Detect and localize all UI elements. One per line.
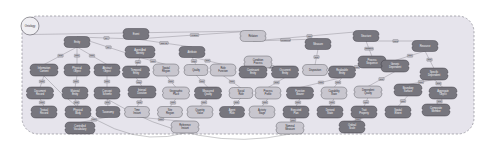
svg-text:part: part [308,35,312,37]
node-label: Sequence [366,61,378,65]
node-label: Measure [313,42,323,46]
node-label: Entity [339,71,346,75]
graph-node[interactable]: Quality [184,65,208,76]
node-label: Value [197,111,204,115]
graph-node[interactable]: OrdinalScale [339,121,365,133]
node-label: Content [40,69,49,73]
node-label: Relation [248,34,258,38]
graph-node[interactable]: Event [123,29,149,40]
graph-node[interactable]: GenericDependent [381,60,409,72]
node-label: Region [162,69,171,73]
graph-node[interactable]: ControlledVocabulary [65,122,95,134]
svg-text:relates: relates [191,34,198,36]
graph-node[interactable]: MaterialEntity [62,87,88,99]
graph-node[interactable]: BoundarySurface [394,84,422,96]
node-label: Taxonomy [102,110,114,114]
node-label: State [327,111,333,115]
node-label: Quality [204,92,212,96]
graph-node[interactable]: RoleFunction [210,64,236,76]
graph-node[interactable]: InformationContent [30,64,58,76]
node-label: Entity [282,71,289,75]
graph-node[interactable]: AggregateObject [429,87,457,99]
graph-node[interactable]: Entity [64,37,90,48]
node-label: Object [73,69,81,73]
node-label: Property [359,111,369,115]
graph-node[interactable]: ReferenceInstant [171,121,199,133]
graph-node[interactable]: CompositeMember [422,104,450,116]
graph-node[interactable]: TraitProperty [351,106,377,118]
graph-node[interactable]: DocumentRecord [27,87,54,99]
graph-node[interactable]: Structure [353,31,379,42]
root-node-label: Ontology [25,24,36,28]
graph-node[interactable]: ContinuantEntity [239,66,267,78]
node-label: Function [218,69,228,73]
graph-node[interactable]: DependentQuality [354,86,382,98]
graph-node[interactable]: Relation [240,31,266,42]
graph-node[interactable]: ConceptScheme [94,87,120,99]
svg-text:measures: measures [281,39,291,41]
node-label: Object [439,92,447,96]
node-label: Entity [133,71,140,75]
node-label: Surface [404,89,413,93]
graph-node[interactable]: MeasuredQuality [195,87,222,99]
node-label: Quality [364,91,372,95]
node-label: Process [253,61,263,65]
node-label: Instant [133,111,141,115]
graph-node[interactable]: Agent AndIdentity [125,46,155,58]
graph-node[interactable]: ProcessProfile [255,87,281,99]
svg-text:hasAttr: hasAttr [161,42,168,44]
graph-node[interactable]: IntervalDuration [128,86,156,98]
graph-node[interactable]: RealizableEntity [329,66,356,78]
node-label: Body [75,111,81,115]
node-label: Dependent [389,65,402,69]
node-label: Extent [394,111,401,115]
graph-node[interactable]: TimeInstant [125,107,150,118]
node-label: Place [173,92,180,96]
node-label: State [331,92,337,96]
graph-node[interactable]: Resource [412,41,438,52]
node-label: Member [431,109,440,113]
graph-node[interactable]: PhysicalBody [65,106,91,118]
graph-node[interactable]: CapabilityState [321,87,347,99]
graph-node[interactable]: SocialRole [229,88,253,99]
graph-node[interactable]: Taxonomy [96,107,120,118]
node-label: Entity [250,71,257,75]
graph-node[interactable]: AgentRole [220,107,245,118]
graph-node[interactable]: SpatialExtent [385,106,411,118]
node-label: Attribute [187,50,197,54]
graph-node[interactable]: ActivityStage [249,106,275,118]
node-label: Event [133,32,140,36]
node-label: Scheme [102,92,112,96]
graph-node[interactable]: Measure [305,39,331,50]
svg-text:hasStep: hasStep [365,47,374,49]
node-label: Entity [72,92,79,96]
graph-node[interactable]: QuantityValue [187,106,213,118]
graph-node[interactable]: Disposition [303,65,328,76]
graph-node[interactable]: NominalMeasure [276,122,304,134]
node-label: Disposition [309,68,322,72]
graph-node[interactable]: FunctionBearer [287,87,314,99]
graph-node[interactable]: OccurrentEntity [272,66,299,78]
node-label: Structure [361,34,372,38]
graph-node[interactable]: SiteRegion [158,107,183,118]
node-label: Identity [136,51,145,55]
graph-node[interactable]: SpatialRegion [153,64,179,76]
node-label: Dependent [428,73,441,77]
graph-node[interactable]: PhysicalObject [64,64,90,76]
graph-node[interactable]: TextualRecord [31,106,57,118]
graph-node[interactable]: ExecutedPlan [283,106,309,118]
graph-node[interactable]: AbstractObject [94,64,120,76]
node-label: Profile [264,92,272,96]
node-label: Region [166,111,175,115]
graph-node[interactable]: GeographicPlace [163,87,190,99]
node-label: Object [103,69,111,73]
root-node-layer[interactable]: Ontology [21,17,39,35]
graph-node[interactable]: TemporalEntity [123,66,150,78]
node-label: Entity [74,40,81,44]
node-label: Vocabulary [74,127,87,131]
graph-node[interactable]: Attribute [179,47,205,58]
graph-node[interactable]: DerivedState [317,106,343,118]
graph-node[interactable]: SpecificDependent [420,68,448,80]
node-label: Bearer [296,92,304,96]
root-node[interactable]: Ontology [21,17,39,35]
